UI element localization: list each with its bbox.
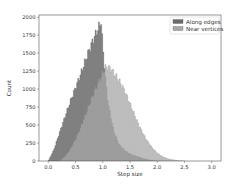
y-tick-label: 500 <box>26 122 36 128</box>
legend-label-near-vertices: Near vertices <box>186 26 223 32</box>
y-tick-label: 1000 <box>22 86 35 92</box>
plot-area <box>48 22 184 161</box>
y-tick-label: 2000 <box>22 14 35 20</box>
x-tick-label: 3.0 <box>208 164 216 170</box>
legend: Along edges Near vertices <box>170 17 223 34</box>
x-axis-label: Step size <box>117 171 143 178</box>
y-tick-label: 0 <box>32 158 35 164</box>
y-tick-label: 750 <box>26 104 36 110</box>
y-axis-label: Count <box>6 79 12 96</box>
y-tick-label: 1750 <box>22 32 35 38</box>
legend-swatch-along-edges <box>173 20 183 24</box>
histogram-chart: 0.00.51.01.52.02.53.0 025050075010001250… <box>0 0 242 188</box>
x-tick-label: 1.0 <box>99 164 107 170</box>
y-tick-label: 250 <box>26 140 36 146</box>
x-tick-label: 2.5 <box>180 164 188 170</box>
legend-label-along-edges: Along edges <box>186 19 221 26</box>
legend-swatch-near-vertices <box>173 27 183 31</box>
legend-item-near-vertices: Near vertices <box>173 26 223 32</box>
y-axis: 025050075010001250150017502000 <box>22 14 39 164</box>
x-tick-label: 1.5 <box>126 164 134 170</box>
y-tick-label: 1500 <box>22 50 35 56</box>
y-tick-label: 1250 <box>22 68 35 74</box>
x-tick-label: 2.0 <box>153 164 161 170</box>
chart-canvas: 0.00.51.01.52.02.53.0 025050075010001250… <box>0 0 242 188</box>
x-axis: 0.00.51.01.52.02.53.0 <box>44 161 216 170</box>
x-tick-label: 0.0 <box>44 164 52 170</box>
x-tick-label: 0.5 <box>71 164 79 170</box>
